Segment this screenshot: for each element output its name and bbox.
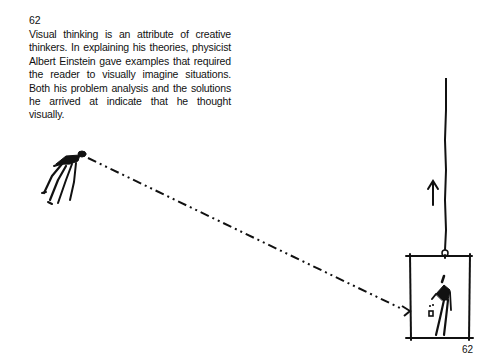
rope xyxy=(445,78,446,250)
up-arrow-icon xyxy=(428,181,438,205)
figure-in-elevator-icon xyxy=(432,276,451,335)
einstein-elevator-illustration xyxy=(0,0,500,362)
dash-dot-light-path xyxy=(88,158,400,308)
floating-figure-icon xyxy=(42,151,86,204)
path-arrowhead-icon xyxy=(402,306,410,316)
dropped-object-icon xyxy=(429,304,433,316)
page-number-bottom: 62 xyxy=(462,344,473,355)
